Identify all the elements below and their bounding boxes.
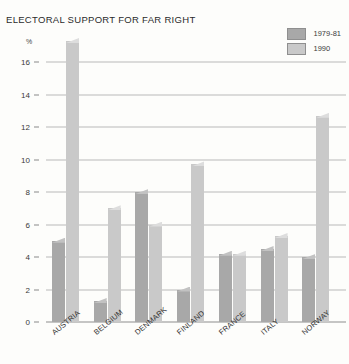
bar-face [108,208,121,322]
bar [135,192,148,322]
bar [52,241,65,322]
bar [302,257,315,322]
bar-face [275,236,288,322]
chart-container: ELECTORAL SUPPORT FOR FAR RIGHT % 024681… [0,0,349,364]
bar [108,208,121,322]
bar-face [135,192,148,322]
bar [316,116,329,322]
bar [261,249,274,322]
bar-face [302,257,315,322]
legend-label: 1979-81 [313,29,341,38]
bar-face [52,241,65,322]
bar-face [191,164,204,322]
legend-swatch [287,43,306,55]
chart-legend: 1979-811990 [287,28,341,58]
bar [275,236,288,322]
legend-item: 1979-81 [287,28,341,39]
legend-swatch [287,28,306,40]
bar-face [66,41,79,322]
bar-face [316,116,329,322]
bar-face [261,249,274,322]
bar [191,164,204,322]
legend-label: 1990 [313,44,330,53]
bar [66,41,79,322]
bar-face [219,254,232,322]
bar [219,254,232,322]
legend-item: 1990 [287,43,341,54]
